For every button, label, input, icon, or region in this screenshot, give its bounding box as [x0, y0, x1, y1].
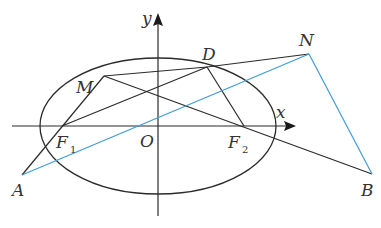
point-label-A: A — [10, 180, 24, 200]
point-label-D: D — [201, 44, 216, 64]
point-label-N: N — [298, 30, 315, 50]
point-label-F1-subscript: 1 — [70, 144, 76, 155]
geometry-diagram: y x O M D N A B F 1 F 2 — [0, 0, 381, 228]
point-label-B: B — [360, 180, 374, 200]
segment-A-N — [22, 54, 309, 175]
point-label-F2: F — [227, 132, 241, 152]
point-label-M: M — [75, 77, 94, 97]
x-axis-label: x — [276, 102, 286, 122]
point-label-F2-subscript: 2 — [242, 144, 248, 155]
segment-N-B — [309, 54, 372, 174]
segment-M-B — [104, 76, 372, 174]
point-label-F1: F — [55, 132, 69, 152]
y-axis-label: y — [141, 8, 152, 28]
segment-M-D — [104, 67, 207, 76]
origin-label: O — [140, 131, 154, 151]
